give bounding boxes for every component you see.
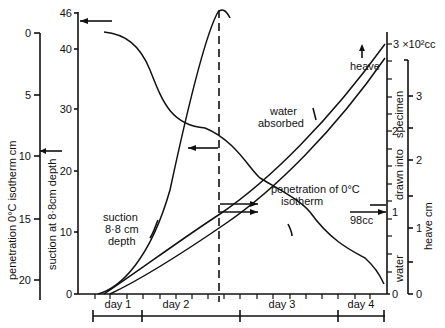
label-heave: heave — [350, 60, 380, 72]
heave-tick-0: 0 — [416, 288, 422, 300]
suc-tick-46: 46 — [60, 7, 72, 19]
label-suction-3: depth — [108, 235, 136, 247]
suc-tick-0: 0 — [66, 288, 72, 300]
pen-tick-5: 5 — [25, 89, 31, 101]
label-98cc: 98cc — [350, 214, 374, 226]
water-tick-3: 3 ×10²cc — [393, 38, 436, 50]
pen-tick-15: 15 — [19, 213, 31, 225]
day-label-3: day 3 — [269, 298, 296, 310]
heave-curve — [110, 58, 385, 294]
water-tick-0: 0 — [392, 288, 398, 300]
label-water-1: water — [269, 105, 297, 117]
water-axis-title-2: drawn into — [393, 149, 405, 200]
day-label-1: day 1 — [105, 298, 132, 310]
label-suction-1: suction — [103, 211, 138, 223]
suc-tick-10: 10 — [60, 226, 72, 238]
day-label-2: day 2 — [163, 298, 190, 310]
heave-tick-2: 2 — [416, 154, 422, 166]
suction-axis-title: suction at 8·8cm depth — [46, 159, 58, 270]
suc-tick-30: 30 — [60, 103, 72, 115]
water-axis-title-1: water — [393, 255, 405, 283]
water-axis-title-3: specimen — [393, 91, 405, 138]
penetration-curve — [104, 32, 384, 284]
pen-tick-20: 20 — [19, 274, 31, 286]
frost-heave-chart: 0 5 10 15 20 46 40 30 20 10 0 3 ×10²cc 2… — [0, 0, 445, 328]
day-label-4: day 4 — [348, 298, 375, 310]
label-suction-2: 8·8 cm — [105, 223, 139, 235]
label-pen-1: penetration of 0°C — [271, 183, 360, 195]
water-tick-1: 1 — [392, 206, 398, 218]
suc-tick-40: 40 — [60, 43, 72, 55]
heave-tick-3: 3 — [416, 90, 422, 102]
water-absorbed-curve — [104, 44, 385, 294]
label-water-2: absorbed — [258, 117, 304, 129]
heave-axis-title: heave cm — [422, 202, 434, 250]
pen-tick-10: 10 — [19, 150, 31, 162]
suc-tick-20: 20 — [60, 165, 72, 177]
penetration-axis-title: penetration 0°C isotherm cm — [6, 140, 18, 280]
pen-tick-0: 0 — [25, 27, 31, 39]
label-pen-2: isotherm — [281, 195, 323, 207]
